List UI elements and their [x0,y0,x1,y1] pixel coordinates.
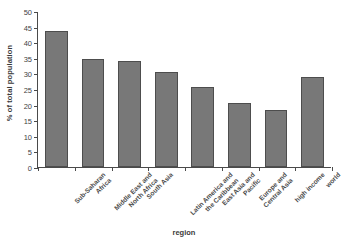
y-tick-mark [34,28,38,29]
x-tick-label-line: high income [293,171,326,204]
x-tick-label: Sub-SaharanAfrica [73,171,113,211]
y-tick-mark [34,12,38,13]
bar-slot [185,12,222,167]
y-tick-label: 30 [24,70,32,79]
y-tick-label: 45 [24,23,32,32]
y-tick-label: 20 [24,101,32,110]
x-axis-title: region [37,228,331,237]
y-tick-label: 15 [24,117,32,126]
y-tick-mark [34,90,38,91]
x-tick-label: high income [293,171,326,204]
bar-slot [221,12,258,167]
bar [228,103,251,167]
y-tick-mark [34,152,38,153]
bar-slot [111,12,148,167]
y-tick-mark [34,121,38,122]
bar [301,77,324,167]
x-tick-label-line: world [324,171,342,189]
bar-slot [75,12,112,167]
bar [45,31,68,167]
bar-slot [148,12,185,167]
plot-area: 05101520253035404550 [37,12,331,168]
y-tick-mark [34,74,38,75]
bar [265,110,288,167]
bar [82,59,105,167]
x-tick-label: Europe andCentral Asia [256,171,294,209]
y-tick-mark [34,106,38,107]
y-tick-label: 35 [24,54,32,63]
bar-slot [38,12,75,167]
y-tick-mark [34,137,38,138]
bar-slot [294,12,331,167]
y-tick-label: 50 [24,8,32,17]
y-tick-label: 10 [24,132,32,141]
x-tick-label: world [324,171,342,189]
x-tick-mark [332,167,333,171]
y-tick-label: 25 [24,86,32,95]
bar [155,72,178,167]
bar [118,61,141,167]
x-axis-tick-labels: Sub-SaharanAfricaMiddle East andNorth Af… [37,169,331,227]
bars-layer [38,12,331,167]
y-tick-mark [34,59,38,60]
y-tick-label: 40 [24,39,32,48]
y-tick-mark [34,43,38,44]
y-tick-label: 0 [28,164,32,173]
bar-slot [258,12,295,167]
y-axis-title: % of total population [2,0,16,168]
y-tick-label: 5 [28,148,32,157]
bar [191,87,214,167]
